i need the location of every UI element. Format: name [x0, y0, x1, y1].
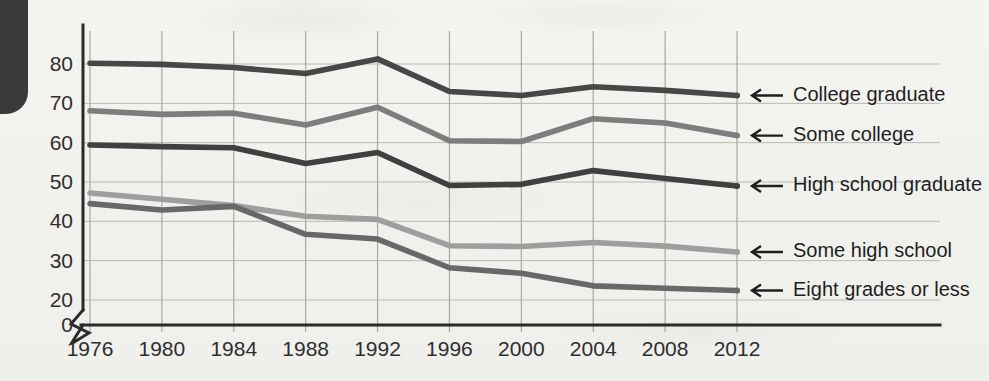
series-endpoint-eight-grades-or-less	[734, 288, 740, 294]
y-tick-label-70: 70	[50, 91, 73, 114]
series-endpoint-some-college	[734, 133, 740, 139]
legend-label-some-high-school[interactable]: Some high school	[793, 239, 952, 261]
x-tick-label-1992: 1992	[354, 337, 401, 360]
legend-label-college-graduate[interactable]: College graduate	[793, 83, 945, 105]
series-endpoint-some-high-school	[734, 249, 740, 255]
x-tick-label-2008: 2008	[642, 337, 689, 360]
x-tick-label-1988: 1988	[282, 337, 329, 360]
legend-label-high-school-graduate[interactable]: High school graduate	[793, 173, 982, 195]
y-tick-label-0: 0	[61, 313, 73, 336]
legend-arrow-icon	[752, 246, 783, 258]
y-axis-tick-labels: 020304050607080	[50, 52, 73, 336]
line-chart: 020304050607080 197619801984198819921996…	[0, 0, 989, 381]
series-endpoint-high-school-graduate	[734, 183, 740, 189]
chart-svg: 020304050607080 197619801984198819921996…	[0, 0, 989, 381]
x-tick-label-1980: 1980	[139, 337, 186, 360]
x-tick-label-1984: 1984	[210, 337, 257, 360]
y-tick-label-80: 80	[50, 52, 73, 75]
legend-arrow-icon	[752, 130, 783, 142]
x-tick-label-1976: 1976	[67, 337, 114, 360]
x-tick-label-2000: 2000	[498, 337, 545, 360]
x-tick-label-1996: 1996	[426, 337, 473, 360]
series-line-some-college[interactable]	[90, 107, 737, 141]
series-line-some-high-school[interactable]	[90, 193, 737, 252]
y-tick-label-40: 40	[50, 209, 73, 232]
series-legend: College graduateSome collegeHigh school …	[752, 83, 982, 300]
y-tick-label-50: 50	[50, 170, 73, 193]
x-tick-label-2004: 2004	[570, 337, 617, 360]
y-tick-label-60: 60	[50, 131, 73, 154]
data-series-group	[90, 59, 740, 294]
x-tick-label-2012: 2012	[714, 337, 761, 360]
legend-arrow-icon	[752, 285, 783, 297]
y-tick-label-20: 20	[50, 288, 73, 311]
legend-arrow-icon	[752, 89, 783, 101]
legend-label-some-college[interactable]: Some college	[793, 123, 914, 145]
series-endpoint-college-graduate	[734, 92, 740, 98]
series-line-high-school-graduate[interactable]	[90, 145, 737, 186]
y-tick-label-30: 30	[50, 249, 73, 272]
legend-label-eight-grades-or-less[interactable]: Eight grades or less	[793, 278, 970, 300]
x-axis-tick-labels: 1976198019841988199219962000200420082012	[67, 337, 761, 360]
